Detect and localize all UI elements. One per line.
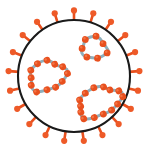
spike-head-icon	[128, 106, 134, 112]
spike-head-icon	[108, 19, 114, 25]
spike-head-icon	[26, 121, 32, 127]
spike-head-icon	[10, 49, 16, 55]
spike	[26, 116, 36, 127]
spike-head-icon	[135, 88, 141, 94]
spike-head-icon	[90, 10, 96, 16]
spike	[10, 49, 23, 56]
spike	[105, 19, 114, 31]
spike	[42, 126, 50, 139]
spike-head-icon	[116, 121, 122, 127]
spike	[111, 116, 121, 127]
viral-envelope	[18, 20, 130, 132]
spike	[14, 104, 26, 112]
spike-head-icon	[20, 32, 26, 38]
spike	[90, 10, 96, 23]
spike-head-icon	[122, 32, 128, 38]
spike	[122, 104, 134, 112]
spike	[117, 32, 128, 42]
spike-head-icon	[132, 49, 138, 55]
spike-head-icon	[71, 7, 77, 13]
spike	[20, 32, 31, 42]
virus-diagram: Influenza virus particle schematic	[0, 0, 162, 153]
spike-head-icon	[61, 138, 67, 144]
virus-particle-svg	[0, 0, 162, 153]
spike-head-icon	[81, 138, 87, 144]
spike-head-icon	[52, 10, 58, 16]
spike-head-icon	[5, 68, 11, 74]
spike	[98, 126, 106, 139]
spike	[71, 7, 77, 21]
spike	[34, 19, 43, 31]
spike-head-icon	[34, 19, 40, 25]
spike	[125, 49, 138, 56]
spike-head-icon	[136, 68, 142, 74]
spike-head-icon	[42, 132, 48, 138]
spike-head-icon	[7, 88, 13, 94]
spike-head-icon	[99, 132, 105, 138]
spike	[52, 10, 58, 23]
envelope-group	[18, 20, 130, 132]
spike-head-icon	[14, 106, 20, 112]
